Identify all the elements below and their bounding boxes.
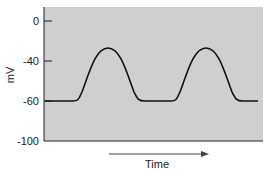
y-tick-label-1: -40 bbox=[23, 55, 39, 67]
y-tick-label-3: -100 bbox=[17, 135, 39, 147]
y-tick-label-2: -60 bbox=[23, 95, 39, 107]
y-axis-label: mV bbox=[4, 66, 16, 83]
plot-area bbox=[44, 7, 263, 141]
membrane-potential-chart: 0 -40 -60 -100 mV Time bbox=[0, 0, 265, 171]
y-tick-label-0: 0 bbox=[33, 15, 39, 27]
x-axis-label: Time bbox=[145, 158, 169, 170]
time-arrow-icon bbox=[109, 151, 209, 157]
